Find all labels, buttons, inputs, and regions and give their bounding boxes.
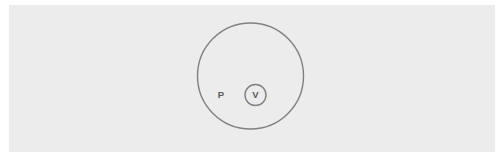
outer-set-circle[interactable]	[198, 23, 304, 129]
set-diagram: P V	[0, 0, 504, 163]
inner-set-label-v: V	[252, 89, 259, 100]
outer-set-label-p: P	[218, 89, 225, 100]
diagram-canvas: P V	[0, 0, 504, 163]
